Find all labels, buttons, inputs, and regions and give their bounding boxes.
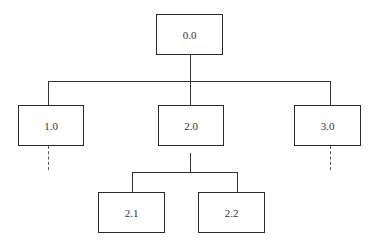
node-label: 2.1 [125, 207, 139, 219]
node-2-0: 2.0 [158, 105, 224, 146]
node-0-0: 0.0 [156, 14, 223, 55]
node-label: 2.2 [225, 207, 239, 219]
connector-to-1-0 [48, 81, 49, 105]
continuation-3-0 [330, 146, 331, 170]
connector-level2-bar [132, 172, 238, 173]
node-1-0: 1.0 [18, 105, 84, 146]
node-2-1: 2.1 [98, 192, 165, 233]
node-2-2: 2.2 [198, 192, 265, 233]
connector-root-down [190, 55, 191, 82]
node-3-0: 3.0 [294, 105, 361, 146]
connector-to-2-1 [132, 172, 133, 192]
continuation-1-0 [48, 146, 49, 170]
connector-to-2-2 [237, 172, 238, 192]
node-label: 3.0 [321, 120, 335, 132]
connector-2-0-down [190, 153, 191, 173]
node-label: 0.0 [183, 29, 197, 41]
connector-to-2-0 [190, 81, 191, 105]
node-label: 2.0 [184, 120, 198, 132]
connector-to-3-0 [330, 81, 331, 105]
node-label: 1.0 [44, 120, 58, 132]
